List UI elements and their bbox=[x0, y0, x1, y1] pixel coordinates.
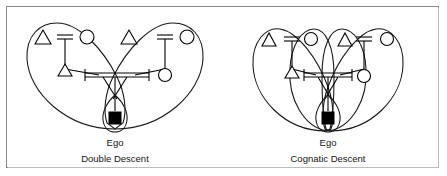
symbol-circle-paternal-grandmother bbox=[305, 33, 318, 46]
ego-label: Ego bbox=[320, 137, 337, 148]
figure-frame: Ego Double Descent bbox=[6, 6, 439, 168]
panel-double-descent: Ego Double Descent bbox=[7, 7, 223, 167]
symbol-triangle-father bbox=[285, 66, 299, 78]
symbol-triangle-maternal-grandfather bbox=[338, 33, 352, 46]
symbol-triangle-paternal-grandfather bbox=[262, 33, 276, 46]
marriage-bar-paternal bbox=[57, 35, 73, 39]
marriage-bar-maternal bbox=[157, 35, 173, 39]
panel-caption: Cognatic Descent bbox=[291, 153, 366, 164]
symbol-triangle-maternal-grandfather bbox=[121, 30, 137, 44]
panel-caption: Double Descent bbox=[81, 153, 149, 164]
panel-cognatic-descent: Ego Cognatic Descent bbox=[222, 7, 438, 167]
symbol-ego bbox=[322, 112, 334, 124]
symbol-ego bbox=[109, 112, 121, 124]
symbol-circle-mother bbox=[159, 69, 172, 82]
symbol-circle-maternal-grandmother bbox=[381, 33, 394, 46]
symbol-triangle-paternal-grandfather bbox=[35, 30, 51, 44]
ego-label: Ego bbox=[107, 137, 124, 148]
symbol-circle-paternal-grandmother bbox=[80, 30, 94, 44]
marriage-bar-parents bbox=[85, 69, 149, 81]
symbol-circle-mother bbox=[358, 70, 371, 83]
symbol-circle-maternal-grandmother bbox=[180, 30, 194, 44]
